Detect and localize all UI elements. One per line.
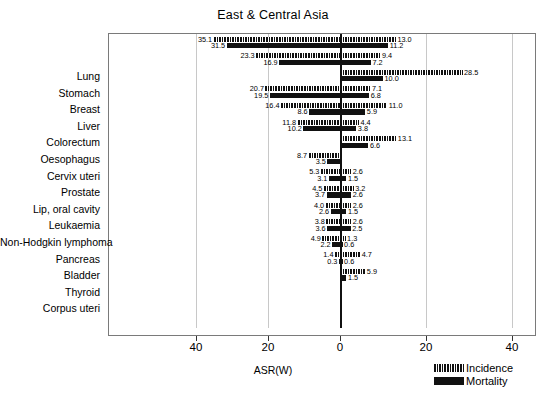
- bar-row: 23.316.99.47.2: [196, 51, 512, 68]
- bar-row: 35.131.513.011.2: [196, 35, 512, 52]
- bar-value-label: 16.9: [263, 60, 277, 65]
- category-label: Prostate: [0, 184, 104, 201]
- bar-value-label: 4.9: [311, 236, 321, 241]
- bar-segment: [327, 226, 340, 231]
- bar-value-label: 3.5: [316, 159, 326, 164]
- bar-segment: [227, 43, 340, 48]
- bar-row: 5.33.12.61.5: [196, 167, 512, 184]
- bar-row: 5.91.5: [196, 267, 512, 284]
- bar-segment: [340, 242, 343, 247]
- bar-segment: [332, 242, 340, 247]
- category-label: Leukaemia: [0, 217, 104, 234]
- bar-segment: [340, 192, 351, 197]
- bar-segment: [303, 126, 340, 131]
- category-label: Oesophagus: [0, 151, 104, 168]
- x-axis-tick-labels: 402002040: [0, 341, 546, 357]
- category-label: Cervix uteri: [0, 168, 104, 185]
- bar-segment: [340, 219, 351, 224]
- mortality-bar: [196, 93, 512, 98]
- incidence-bar: [196, 120, 512, 125]
- incidence-bar: [196, 153, 512, 158]
- bar-value-label: 5.9: [367, 109, 377, 114]
- mortality-bar: [196, 143, 512, 148]
- legend-item-mortality: Mortality: [434, 375, 542, 387]
- bar-value-label: 9.4: [382, 53, 392, 58]
- bar-value-label: 8.7: [297, 153, 307, 158]
- bar-segment: [309, 109, 340, 114]
- incidence-bar: [196, 37, 512, 42]
- bar-segment: [340, 143, 368, 148]
- bar-value-label: 1.5: [348, 209, 358, 214]
- incidence-bar: [196, 252, 512, 257]
- bar-value-label: 13.1: [398, 136, 412, 141]
- category-label: Corpus uteri: [0, 300, 104, 317]
- bar-value-label: 2.6: [319, 209, 329, 214]
- bar-segment: [340, 37, 396, 42]
- bar-value-label: 2.5: [352, 226, 362, 231]
- x-tick-label: 20: [248, 341, 288, 353]
- category-axis-labels: LungStomachBreastLiverColorectumOesophag…: [0, 68, 104, 317]
- legend-swatch-mortality: [434, 377, 464, 385]
- category-label: Bladder: [0, 267, 104, 284]
- incidence-bar: [196, 103, 512, 108]
- bar-segment: [214, 37, 340, 42]
- legend-label-mortality: Mortality: [466, 376, 508, 387]
- bar-segment: [326, 219, 340, 224]
- bar-segment: [324, 186, 340, 191]
- bar-value-label: 0.3: [327, 259, 337, 264]
- category-label: Lung: [0, 68, 104, 85]
- category-label: Pancreas: [0, 251, 104, 268]
- bar-value-label: 23.3: [240, 53, 254, 58]
- bar-row: 8.73.5: [196, 151, 512, 168]
- bar-segment: [327, 159, 340, 164]
- bar-value-label: 10.2: [288, 126, 302, 131]
- bar-value-label: 6.6: [370, 143, 380, 148]
- bar-value-label: 3.1: [317, 176, 327, 181]
- incidence-bar: [196, 86, 512, 91]
- category-label: Non-Hodgkin lymphoma: [0, 234, 104, 251]
- bar-segment: [340, 43, 388, 48]
- bar-segment: [340, 136, 396, 141]
- bar-value-label: 1.5: [348, 176, 358, 181]
- bar-row: 20.719.57.16.8: [196, 84, 512, 101]
- bar-segment: [340, 176, 346, 181]
- bar-segment: [281, 103, 340, 108]
- chart-legend: Incidence Mortality: [434, 362, 542, 388]
- legend-swatch-incidence: [434, 364, 464, 372]
- x-tick-label: 20: [406, 341, 446, 353]
- incidence-bar: [196, 136, 512, 141]
- bar-value-label: 5.9: [367, 269, 377, 274]
- category-label: Colorectum: [0, 134, 104, 151]
- category-label: Stomach: [0, 85, 104, 102]
- bar-row: 3.83.62.62.5: [196, 217, 512, 234]
- bar-segment: [340, 126, 356, 131]
- bar-value-label: 3.7: [315, 192, 325, 197]
- bar-value-label: 28.5: [464, 70, 478, 75]
- mortality-bar: [196, 126, 512, 131]
- bar-value-label: 6.8: [371, 93, 381, 98]
- bar-row: 4.92.21.30.6: [196, 234, 512, 251]
- bar-segment: [340, 76, 383, 81]
- bar-value-label: 3.6: [315, 226, 325, 231]
- mortality-bar: [196, 60, 512, 65]
- bar-row: 4.53.73.22.6: [196, 184, 512, 201]
- bar-segment: [340, 103, 387, 108]
- bar-row: 13.16.6: [196, 134, 512, 151]
- plot-area: 35.131.513.011.223.316.99.47.228.510.020…: [196, 34, 512, 328]
- legend-item-incidence: Incidence: [434, 362, 542, 374]
- bar-value-label: 11.2: [390, 43, 404, 48]
- bar-value-label: 16.4: [265, 103, 279, 108]
- bar-segment: [279, 60, 340, 65]
- category-label: Thyroid: [0, 284, 104, 301]
- bar-value-label: 3.8: [358, 126, 368, 131]
- bar-segment: [340, 275, 346, 280]
- category-label: Liver: [0, 118, 104, 135]
- bar-segment: [265, 86, 340, 91]
- bar-value-label: 0.6: [344, 242, 354, 247]
- bar-rows: 35.131.513.011.223.316.99.47.228.510.020…: [196, 34, 512, 328]
- bar-value-label: 31.5: [211, 43, 225, 48]
- category-label: Breast: [0, 101, 104, 118]
- bar-value-label: 19.5: [254, 93, 268, 98]
- bar-segment: [270, 93, 340, 98]
- chart-figure: East & Central Asia Men Women LungStomac…: [0, 0, 546, 413]
